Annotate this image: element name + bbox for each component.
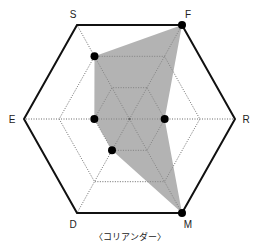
data-marker-r: [161, 115, 169, 123]
axis-label-f: F: [185, 9, 191, 20]
data-marker-m: [178, 209, 186, 217]
data-polygon: [94, 25, 182, 213]
radar-chart: S F E R D M 〈コリアンダー〉: [0, 0, 256, 249]
data-marker-f: [178, 21, 186, 29]
data-marker-s: [91, 52, 99, 60]
axis-label-m: M: [184, 219, 192, 230]
axis-label-e: E: [9, 114, 16, 125]
chart-caption: 〈コリアンダー〉: [94, 231, 166, 242]
axis-label-d: D: [69, 219, 76, 230]
data-marker-d: [108, 146, 116, 154]
axis-label-s: S: [70, 9, 77, 20]
data-marker-e: [90, 115, 98, 123]
axis-label-r: R: [242, 114, 249, 125]
